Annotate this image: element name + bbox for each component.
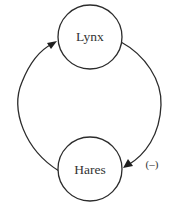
node-lynx: Lynx bbox=[58, 5, 122, 69]
edge-label-negative: (–) bbox=[146, 158, 159, 171]
node-hares: Hares bbox=[58, 137, 122, 201]
edge-hares-to-lynx bbox=[18, 41, 59, 171]
node-label-hares: Hares bbox=[74, 162, 105, 177]
node-label-lynx: Lynx bbox=[76, 29, 104, 44]
predator-prey-diagram: Lynx Hares (–) bbox=[0, 0, 171, 213]
edge-lynx-to-hares bbox=[121, 42, 161, 168]
arrowhead-icon bbox=[47, 41, 57, 49]
